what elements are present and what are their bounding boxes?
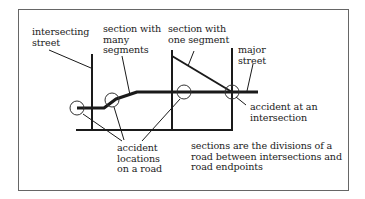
leader-many-segments [122, 56, 130, 95]
section-one-segment-line [172, 56, 232, 92]
leader-accident-intersection [236, 97, 246, 105]
leader-one-segment [188, 51, 194, 66]
label-section-many-segments: section with many segments [103, 24, 161, 56]
leader-accident-3 [142, 99, 180, 141]
leader-accident-2 [114, 107, 124, 140]
label-caption: sections are the divisions of a road bet… [191, 141, 342, 173]
label-intersecting-street: intersecting street [32, 27, 89, 48]
label-section-one-segment: section with one segment [168, 24, 229, 45]
label-accident-locations: accident locations on a road [117, 143, 162, 175]
leader-accident-1 [83, 114, 122, 141]
label-accident-at-intersection: accident at an intersection [250, 102, 318, 123]
road-sections-diagram: intersecting street section with many se… [0, 0, 365, 199]
leader-major-street [247, 64, 253, 91]
label-major-street: major street [238, 45, 266, 66]
leader-intersecting-street [49, 50, 91, 68]
